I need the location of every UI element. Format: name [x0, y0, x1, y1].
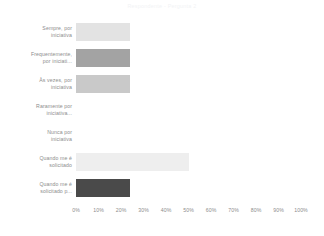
bar[interactable]: [76, 23, 130, 41]
category-label: Quando me é solicitado p...: [2, 181, 72, 194]
category-label: Quando me é solicitado: [2, 155, 72, 168]
bar-row: Raramente por iniciativa...: [0, 97, 324, 123]
x-axis-tick: 80%: [251, 206, 262, 214]
x-axis-tick: 10%: [93, 206, 104, 214]
chart-title: Respondente - Pergunta 2: [0, 2, 324, 10]
bar-track: [76, 123, 301, 149]
bar[interactable]: [76, 179, 130, 197]
bar-track: [76, 175, 301, 201]
category-label: Raramente por iniciativa...: [2, 103, 72, 116]
bar-track: [76, 19, 301, 45]
bar-chart: Respondente - Pergunta 2 Sempre, por ini…: [0, 0, 324, 236]
category-label: Sempre, por iniciativa: [2, 25, 72, 38]
bar-track: [76, 149, 301, 175]
x-axis-tick: 50%: [183, 206, 194, 214]
bar-track: [76, 97, 301, 123]
bar-row: Quando me é solicitado p...: [0, 175, 324, 201]
bar-row: Às vezes, por iniciativa: [0, 71, 324, 97]
x-axis-tick: 20%: [116, 206, 127, 214]
x-axis-tick: 100%: [294, 206, 308, 214]
x-axis-tick: 70%: [228, 206, 239, 214]
category-label: Às vezes, por iniciativa: [2, 77, 72, 90]
bar-row: Frequentemente, por iniciati...: [0, 45, 324, 71]
x-axis: 0%10%20%30%40%50%60%70%80%90%100%: [0, 206, 324, 222]
bar[interactable]: [76, 49, 130, 67]
x-axis-tick: 0%: [72, 206, 80, 214]
x-axis-tick: 60%: [206, 206, 217, 214]
x-axis-tick: 40%: [161, 206, 172, 214]
category-label: Nunca por iniciativa: [2, 129, 72, 142]
x-axis-tick: 30%: [138, 206, 149, 214]
x-axis-tick: 90%: [273, 206, 284, 214]
plot-area: Sempre, por iniciativaFrequentemente, po…: [0, 16, 324, 206]
bar-row: Quando me é solicitado: [0, 149, 324, 175]
bar-track: [76, 45, 301, 71]
category-label: Frequentemente, por iniciati...: [2, 51, 72, 64]
bar[interactable]: [76, 153, 189, 171]
bar-row: Sempre, por iniciativa: [0, 19, 324, 45]
bar-track: [76, 71, 301, 97]
bar[interactable]: [76, 75, 130, 93]
bar-row: Nunca por iniciativa: [0, 123, 324, 149]
